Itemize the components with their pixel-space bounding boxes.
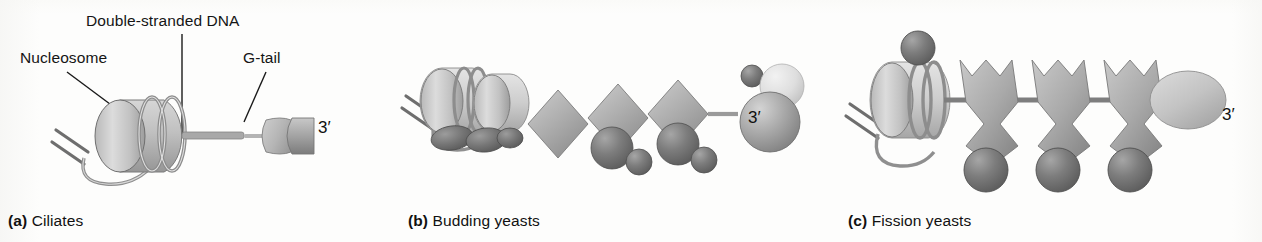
caption-panel-b: (b) Budding yeasts [408, 212, 540, 230]
prime-end-label-b: 3′ [748, 108, 761, 128]
telomere-structure-figure: Double-stranded DNA Nucleosome G-tail 3′… [0, 0, 1262, 242]
caption-text-a: Ciliates [32, 212, 84, 229]
caption-tag-a: (a) [8, 212, 27, 229]
caption-tag-c: (c) [848, 212, 867, 229]
caption-text-b: Budding yeasts [433, 212, 540, 229]
caption-tag-b: (b) [408, 212, 428, 229]
caption-panel-c: (c) Fission yeasts [848, 212, 971, 230]
label-g-tail: G-tail [243, 49, 281, 67]
panel-ciliates: Double-stranded DNA Nucleosome G-tail 3′… [0, 0, 400, 242]
prime-end-label-c: 3′ [1222, 105, 1235, 125]
caption-panel-a: (a) Ciliates [8, 212, 83, 230]
caption-text-c: Fission yeasts [872, 212, 972, 229]
label-double-stranded-dna: Double-stranded DNA [86, 12, 240, 30]
panel-budding-yeasts: 3′ (b) Budding yeasts [400, 0, 820, 242]
label-nucleosome: Nucleosome [20, 49, 107, 67]
panel-fission-yeasts: 3′ (c) Fission yeasts [820, 0, 1262, 242]
prime-end-label-a: 3′ [318, 118, 331, 138]
